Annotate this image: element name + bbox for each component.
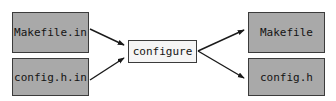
node-makefile-in-label: Makefile.in (14, 27, 87, 38)
node-configure-label: configure (133, 46, 193, 57)
node-configure: configure (128, 40, 197, 63)
node-config-h-in-label: config.h.in (14, 72, 87, 83)
edge-configure-to-config-h (198, 51, 244, 78)
edge-makefile-in-to-configure (90, 29, 124, 45)
edge-configure-to-makefile (198, 30, 244, 51)
edge-config-h-in-to-configure (90, 58, 124, 80)
node-makefile-label: Makefile (260, 27, 313, 38)
node-makefile-in: Makefile.in (12, 12, 89, 53)
node-config-h: config.h (248, 58, 325, 96)
node-makefile: Makefile (248, 12, 325, 53)
node-config-h-in: config.h.in (12, 58, 89, 96)
node-config-h-label: config.h (260, 72, 313, 83)
flow-diagram: Makefile.in config.h.in configure Makefi… (0, 0, 336, 101)
